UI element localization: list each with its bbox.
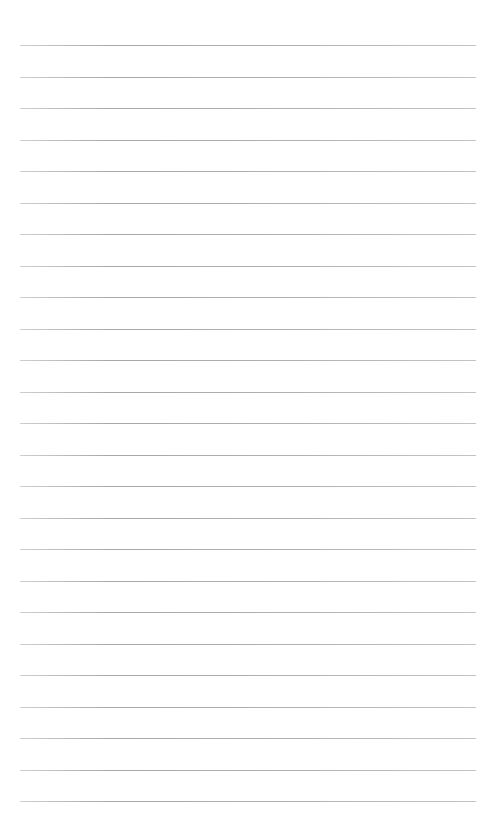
ruled-line — [20, 486, 476, 487]
ruled-line — [20, 644, 476, 645]
ruled-line — [20, 738, 476, 739]
ruled-line — [20, 360, 476, 361]
ruled-line — [20, 77, 476, 78]
ruled-line — [20, 581, 476, 582]
ruled-line — [20, 770, 476, 771]
ruled-line — [20, 707, 476, 708]
ruled-line — [20, 171, 476, 172]
ruled-line — [20, 675, 476, 676]
ruled-line — [20, 392, 476, 393]
ruled-line — [20, 423, 476, 424]
ruled-line — [20, 297, 476, 298]
ruled-line — [20, 45, 476, 46]
ruled-line — [20, 455, 476, 456]
ruled-line — [20, 329, 476, 330]
ruled-line — [20, 801, 476, 802]
ruled-line — [20, 203, 476, 204]
ruled-line — [20, 140, 476, 141]
ruled-line — [20, 518, 476, 519]
lined-paper-page — [0, 0, 494, 834]
ruled-line — [20, 549, 476, 550]
ruled-line — [20, 266, 476, 267]
ruled-line — [20, 612, 476, 613]
ruled-line — [20, 108, 476, 109]
ruled-line — [20, 234, 476, 235]
